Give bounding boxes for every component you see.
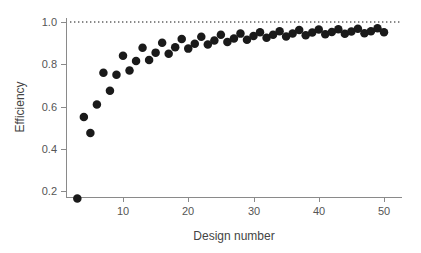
data-point [164,49,173,58]
data-point [119,52,128,61]
data-point [73,194,82,203]
data-point [125,66,134,75]
y-tick-label-3: 0.8 [42,58,57,70]
data-point [210,36,219,45]
data-point [380,28,389,37]
y-tick-label-2: 0.6 [42,101,57,113]
y-axis-title: Efficiency [13,81,27,132]
data-point [236,29,245,38]
data-point [217,30,226,39]
x-tick-label-1: 20 [182,205,194,217]
data-point [171,43,180,52]
data-point [132,57,141,66]
data-point [112,71,121,80]
data-point [93,100,102,109]
scatter-plot-figure: 0.2 0.4 0.6 0.8 1.0 10 20 30 40 50 Desig… [0,0,421,253]
data-point [158,38,167,47]
data-point [138,44,147,53]
data-point [191,40,200,49]
data-point [151,48,160,57]
efficiency-vs-design-number-chart: 0.2 0.4 0.6 0.8 1.0 10 20 30 40 50 Desig… [0,0,421,253]
data-point [86,129,95,138]
x-tick-label-2: 30 [248,205,260,217]
data-point [197,33,206,42]
x-axis-title: Design number [193,229,274,243]
x-tick-label-3: 40 [313,205,325,217]
data-point [106,86,115,95]
data-point [145,56,154,65]
data-point [177,35,186,44]
x-tick-label-0: 10 [117,205,129,217]
y-tick-label-0: 0.2 [42,185,57,197]
data-point [80,113,89,122]
data-point [99,68,108,77]
chart-background [0,0,421,253]
y-tick-label-4: 1.0 [42,16,57,28]
data-point [256,28,265,37]
y-tick-label-1: 0.4 [42,143,57,155]
x-tick-label-4: 50 [378,205,390,217]
